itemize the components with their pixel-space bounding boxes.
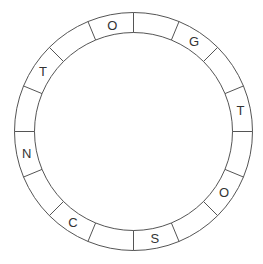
segment-letter-15: O [107, 18, 117, 33]
segment-letter-13: T [39, 64, 47, 79]
segment-letter-5: O [219, 185, 229, 200]
segment-letter-9: C [68, 215, 77, 230]
ring-segment-4[interactable] [225, 132, 253, 178]
ring-segment-0[interactable] [134, 13, 180, 41]
inner-ring-circle [35, 33, 233, 231]
segment-dividers [15, 13, 253, 251]
ring-segment-12[interactable] [15, 86, 43, 132]
segment-letter-1: G [189, 34, 199, 49]
segment-letter-3: T [236, 103, 244, 118]
segment-letter-11: N [22, 146, 31, 161]
segment-letter-7: S [150, 231, 159, 246]
ring-segment-8[interactable] [88, 223, 134, 251]
letter-ring-diagram: GTOSCNTO [0, 0, 263, 264]
